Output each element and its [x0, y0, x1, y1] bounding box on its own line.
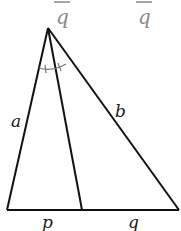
fraction-denominator-left: q — [56, 5, 69, 29]
label-base-q: q — [128, 212, 139, 231]
label-side-b: b — [115, 101, 126, 121]
angle-tick-left — [45, 65, 46, 73]
triangle-diagram: q q a b p q — [0, 0, 181, 231]
label-side-a: a — [11, 111, 21, 131]
side-b — [48, 28, 179, 210]
fraction-denominator-right: q — [138, 5, 151, 29]
angle-arc — [39, 64, 66, 69]
angle-bisector — [48, 28, 82, 210]
label-base-p: p — [42, 212, 53, 231]
